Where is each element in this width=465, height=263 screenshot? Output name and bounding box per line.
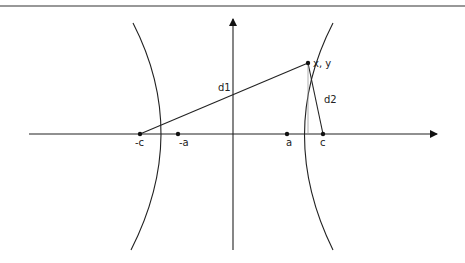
point-c bbox=[321, 132, 325, 136]
label-neg-a: -a bbox=[179, 137, 189, 148]
hyperbola-diagram: -c -a a c x, y d1 d2 bbox=[0, 0, 465, 263]
point-a bbox=[285, 132, 289, 136]
point-xy bbox=[306, 61, 310, 65]
label-d2: d2 bbox=[324, 94, 337, 105]
point-neg-c bbox=[138, 132, 142, 136]
label-neg-c: -c bbox=[135, 137, 144, 148]
label-a: a bbox=[286, 137, 292, 148]
d2-line bbox=[308, 63, 323, 134]
d1-line bbox=[140, 63, 308, 134]
point-neg-a bbox=[176, 132, 180, 136]
label-c: c bbox=[320, 137, 326, 148]
label-d1: d1 bbox=[218, 82, 231, 93]
label-point-xy: x, y bbox=[313, 58, 331, 69]
